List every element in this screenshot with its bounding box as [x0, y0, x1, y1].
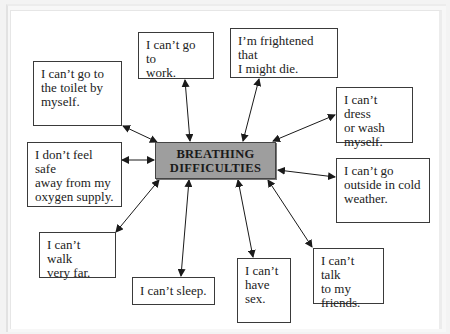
arrow-walk	[116, 180, 159, 232]
node-dress: I can’t dress or wash myself.	[336, 87, 413, 143]
arrow-outside	[278, 170, 335, 177]
arrow-dress	[273, 115, 335, 141]
node-frightened: I’m frightened that I might die.	[230, 28, 338, 78]
node-safe: I don’t feel safe away from my oxygen su…	[27, 142, 122, 207]
arrow-sex	[238, 180, 253, 257]
node-toilet: I can’t go to the toilet by myself.	[33, 61, 122, 126]
node-sleep: I can’t sleep.	[132, 277, 215, 305]
center-node-breathing-difficulties: BREATHING DIFFICULTIES	[155, 142, 276, 179]
node-sex: I can’t have sex.	[237, 258, 291, 323]
arrow-toilet	[123, 126, 157, 142]
arrow-frightened	[243, 79, 259, 141]
arrow-talk	[268, 180, 312, 247]
node-talk: I can’t talk to my friends.	[313, 248, 384, 304]
node-work: I can’t go to work.	[138, 32, 214, 79]
node-outside: I can’t go outside in cold weather.	[336, 158, 430, 223]
arrow-sleep	[181, 180, 189, 276]
node-walk: I can’t walk very far.	[39, 232, 116, 278]
arrow-work	[185, 80, 190, 141]
